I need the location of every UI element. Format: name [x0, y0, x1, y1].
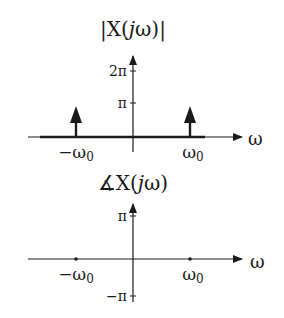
phase-omega-axis-label: ω [250, 251, 265, 272]
phase-point-positive-omega0 [188, 257, 192, 261]
impulse-positive-omega0 [184, 106, 196, 137]
phase-tick-label-neg-pi: −π [106, 288, 127, 304]
magnitude-plot: |X(jω)| 2π π ω −ω0 ω0 [28, 17, 263, 164]
impulse-negative-omega0 [70, 106, 82, 137]
magnitude-tick-label-2pi: 2π [109, 63, 127, 79]
magnitude-title: |X(jω)| [100, 17, 166, 42]
fourier-transform-diagram: |X(jω)| 2π π ω −ω0 ω0 ∡X(jω) π −π [0, 0, 284, 318]
magnitude-pos-omega0-label: ω0 [182, 142, 204, 164]
phase-neg-omega0-label: −ω0 [58, 264, 94, 286]
phase-title: ∡X(jω) [98, 171, 168, 195]
magnitude-tick-label-pi: π [118, 95, 127, 111]
phase-pos-omega0-label: ω0 [182, 264, 204, 286]
magnitude-neg-omega0-label: −ω0 [58, 142, 94, 164]
phase-tick-label-pi: π [118, 208, 127, 224]
phase-plot: ∡X(jω) π −π ω −ω0 ω0 [28, 171, 265, 304]
phase-point-negative-omega0 [74, 257, 78, 261]
magnitude-omega-axis-label: ω [248, 128, 263, 149]
